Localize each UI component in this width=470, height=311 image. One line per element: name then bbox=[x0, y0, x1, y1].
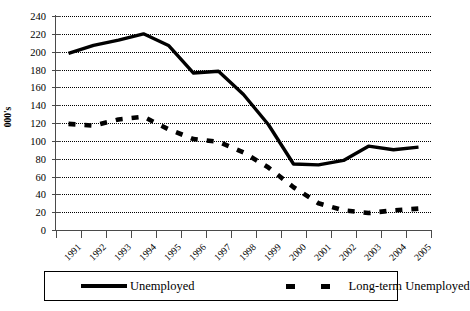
x-axis-tick-label: 2001 bbox=[304, 242, 332, 270]
y-axis-tick-label: 80 bbox=[36, 154, 47, 165]
y-axis-tick-label: 100 bbox=[30, 137, 46, 148]
x-axis-tick bbox=[56, 231, 57, 238]
y-axis-tick-label: 160 bbox=[30, 83, 46, 94]
x-axis-tick bbox=[281, 231, 282, 238]
legend-entry-unemployed: Unemployed bbox=[81, 280, 195, 293]
y-axis-tick-label: 60 bbox=[36, 172, 47, 183]
y-axis-tick-label: 40 bbox=[36, 190, 47, 201]
series-line-long-term-unemployed bbox=[69, 117, 419, 213]
x-axis-tick-label: 2004 bbox=[379, 242, 407, 270]
x-axis-tick-label: 1998 bbox=[229, 242, 257, 270]
y-axis-tick-label: 180 bbox=[30, 65, 46, 76]
x-axis-tick bbox=[206, 231, 207, 238]
dashed-line-swatch-icon bbox=[273, 284, 343, 289]
x-axis-tick bbox=[306, 231, 307, 238]
x-axis: 1991199219931994199519961997199819992000… bbox=[55, 230, 432, 231]
y-axis-title: 000's bbox=[3, 107, 13, 128]
x-axis-tick-label: 1997 bbox=[204, 242, 232, 270]
x-axis-tick-label: 1995 bbox=[154, 242, 182, 270]
x-axis-tick-label: 1999 bbox=[254, 242, 282, 270]
x-axis-tick bbox=[131, 231, 132, 238]
x-axis-tick-label: 1993 bbox=[104, 242, 132, 270]
x-axis-tick bbox=[431, 231, 432, 238]
chart-legend: Unemployed Long-term Unemployed bbox=[44, 271, 398, 301]
y-axis-tick-label: 120 bbox=[30, 119, 46, 130]
x-axis-tick-label: 2000 bbox=[279, 242, 307, 270]
x-axis-tick bbox=[81, 231, 82, 238]
x-axis-tick-label: 2003 bbox=[354, 242, 382, 270]
legend-label-unemployed: Unemployed bbox=[130, 280, 195, 293]
y-axis-tick-label: 220 bbox=[30, 30, 46, 41]
x-axis-tick bbox=[156, 231, 157, 238]
x-axis-tick-label: 1996 bbox=[179, 242, 207, 270]
x-axis-tick bbox=[181, 231, 182, 238]
x-axis-tick-label: 1991 bbox=[54, 242, 82, 270]
y-axis-tick-label: 240 bbox=[30, 12, 46, 23]
legend-entry-long-term-unemployed: Long-term Unemployed bbox=[273, 280, 470, 293]
y-axis-tick-label: 140 bbox=[30, 101, 46, 112]
x-axis-tick-label: 2005 bbox=[404, 242, 432, 270]
x-axis-tick bbox=[231, 231, 232, 238]
x-axis-tick bbox=[256, 231, 257, 238]
y-axis-tick-label: 20 bbox=[36, 208, 47, 219]
x-axis-tick bbox=[331, 231, 332, 238]
x-axis-tick-label: 1992 bbox=[79, 242, 107, 270]
x-axis-tick bbox=[356, 231, 357, 238]
x-axis-tick-label: 2002 bbox=[329, 242, 357, 270]
x-axis-tick bbox=[106, 231, 107, 238]
legend-label-long-term-unemployed: Long-term Unemployed bbox=[349, 280, 470, 293]
y-axis-tick-label: 200 bbox=[30, 47, 46, 58]
x-axis-tick-label: 1994 bbox=[129, 242, 157, 270]
solid-line-swatch-icon bbox=[81, 284, 127, 288]
y-axis-tick-label: 0 bbox=[41, 226, 46, 237]
x-axis-tick bbox=[381, 231, 382, 238]
series-line-unemployed bbox=[69, 34, 419, 165]
x-axis-tick bbox=[406, 231, 407, 238]
series-layer bbox=[56, 16, 431, 230]
